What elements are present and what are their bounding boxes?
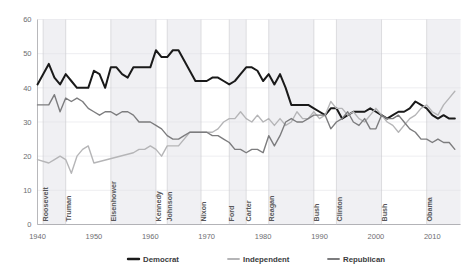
president-label-ford-6: Ford <box>227 206 236 222</box>
y-axis-tick-30: 30 <box>23 118 31 127</box>
president-label-bush-11: Bush <box>380 204 389 222</box>
x-axis-tick-2010: 2010 <box>424 232 441 241</box>
y-axis-tick-50: 50 <box>23 49 31 58</box>
x-axis-tick-1960: 1960 <box>142 232 159 241</box>
y-axis-tick-40: 40 <box>23 84 31 93</box>
president-label-carter-7: Carter <box>244 200 253 221</box>
chart-canvas: 0102030405060194019501960197019801990200… <box>0 0 466 276</box>
president-label-kennedy-3: Kennedy <box>154 191 163 221</box>
president-label-roosevelt-0: Roosevelt <box>41 187 50 222</box>
president-label-obama-12: Obama <box>425 196 434 221</box>
y-axis-tick-0: 0 <box>27 220 31 229</box>
legend-label-independent[interactable]: Independent <box>243 255 290 264</box>
president-label-johnson-4: Johnson <box>165 192 174 222</box>
x-axis-tick-1980: 1980 <box>255 232 272 241</box>
president-label-nixon-5: Nixon <box>199 202 208 222</box>
president-label-eisenhower-2: Eisenhower <box>109 181 118 222</box>
y-axis-tick-20: 20 <box>23 152 31 161</box>
x-axis-tick-2000: 2000 <box>368 232 385 241</box>
y-axis-tick-60: 60 <box>23 15 31 24</box>
president-label-reagan-8: Reagan <box>267 196 276 222</box>
president-label-clinton-10: Clinton <box>335 197 344 222</box>
x-axis-tick-1990: 1990 <box>311 232 328 241</box>
legend-label-republican[interactable]: Republican <box>343 255 385 264</box>
president-label-bush-9: Bush <box>312 204 321 222</box>
x-axis-tick-1970: 1970 <box>198 232 215 241</box>
x-axis-tick-1950: 1950 <box>86 232 103 241</box>
party-identification-line-chart: 0102030405060194019501960197019801990200… <box>0 0 466 276</box>
legend-label-democrat[interactable]: Democrat <box>143 255 179 264</box>
y-axis-tick-10: 10 <box>23 186 31 195</box>
president-label-truman-1: Truman <box>64 196 73 222</box>
x-axis-tick-1940: 1940 <box>29 232 46 241</box>
